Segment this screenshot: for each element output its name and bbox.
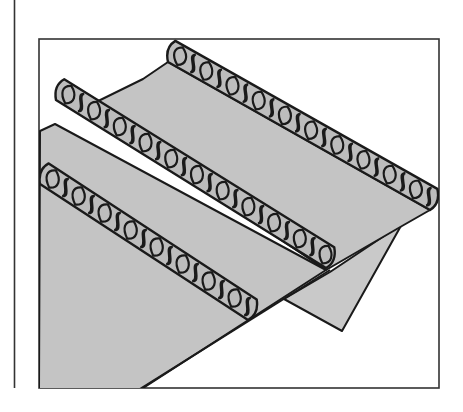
seam-illustration — [0, 0, 463, 412]
